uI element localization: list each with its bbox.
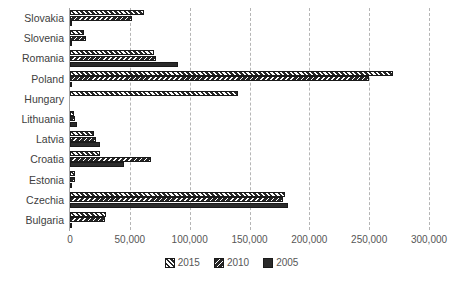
bar-poland-2005 (70, 82, 72, 87)
bar-lithuania-2005 (70, 122, 77, 127)
category-label-estonia: Estonia (29, 175, 64, 186)
legend-label-2015: 2015 (178, 258, 200, 268)
bar-group: Lithuania (70, 109, 429, 129)
bar-group: Hungary (70, 89, 429, 109)
bar-croatia-2010 (70, 157, 151, 162)
category-label-lithuania: Lithuania (21, 114, 64, 125)
bar-chart: SlovakiaSloveniaRomaniaPolandHungaryLith… (0, 0, 463, 283)
bar-latvia-2005 (70, 142, 100, 147)
bar-group: Romania (70, 48, 429, 68)
category-label-bulgaria: Bulgaria (25, 215, 64, 226)
bar-group: Poland (70, 69, 429, 89)
bar-croatia-2015 (70, 151, 100, 156)
legend-swatch-2010 (214, 258, 224, 268)
bar-poland-2015 (70, 71, 393, 76)
bar-czechia-2015 (70, 192, 285, 197)
bar-estonia-2015 (70, 171, 75, 176)
x-tick-label: 250,000 (351, 234, 387, 245)
x-tick-label: 0 (67, 234, 73, 245)
plot-area: SlovakiaSloveniaRomaniaPolandHungaryLith… (70, 8, 429, 230)
bar-latvia-2015 (70, 131, 94, 136)
bar-lithuania-2010 (70, 116, 75, 121)
legend-swatch-2015 (165, 258, 175, 268)
x-tick-label: 300,000 (411, 234, 447, 245)
bar-bulgaria-2005 (70, 223, 72, 228)
gridline (429, 8, 430, 230)
bar-bulgaria-2015 (70, 212, 106, 217)
bar-group: Latvia (70, 129, 429, 149)
bar-group: Croatia (70, 149, 429, 169)
x-tick-label: 100,000 (172, 234, 208, 245)
bar-slovenia-2015 (70, 30, 84, 35)
bar-group: Slovenia (70, 28, 429, 48)
bar-romania-2015 (70, 50, 154, 55)
category-label-poland: Poland (31, 74, 64, 85)
category-label-slovakia: Slovakia (24, 13, 64, 24)
bar-lithuania-2015 (70, 111, 74, 116)
bar-slovakia-2005 (70, 21, 72, 26)
bar-slovenia-2010 (70, 36, 86, 41)
bar-slovakia-2010 (70, 16, 132, 21)
x-tick-label: 150,000 (231, 234, 267, 245)
legend-label-2005: 2005 (276, 258, 298, 268)
bar-czechia-2005 (70, 203, 288, 208)
bar-group: Bulgaria (70, 210, 429, 230)
category-label-latvia: Latvia (36, 134, 64, 145)
bar-group: Slovakia (70, 8, 429, 28)
legend-item-2005[interactable]: 2005 (263, 258, 298, 268)
bar-estonia-2010 (70, 177, 75, 182)
legend: 201520102005 (0, 258, 463, 268)
bar-group: Czechia (70, 190, 429, 210)
bar-slovenia-2005 (70, 41, 72, 46)
category-label-slovenia: Slovenia (24, 33, 64, 44)
bar-hungary-2015 (70, 91, 238, 96)
bar-latvia-2010 (70, 137, 96, 142)
bar-slovakia-2015 (70, 10, 144, 15)
category-label-hungary: Hungary (24, 94, 64, 105)
bar-poland-2010 (70, 76, 369, 81)
bar-group: Estonia (70, 169, 429, 189)
category-label-croatia: Croatia (30, 154, 64, 165)
x-tick-label: 50,000 (115, 234, 146, 245)
category-label-czechia: Czechia (26, 195, 64, 206)
category-label-romania: Romania (22, 53, 64, 64)
bar-czechia-2010 (70, 197, 283, 202)
legend-label-2010: 2010 (227, 258, 249, 268)
legend-item-2010[interactable]: 2010 (214, 258, 249, 268)
legend-swatch-2005 (263, 258, 273, 268)
bar-romania-2010 (70, 56, 156, 61)
bar-croatia-2005 (70, 162, 124, 167)
legend-item-2015[interactable]: 2015 (165, 258, 200, 268)
bar-romania-2005 (70, 62, 178, 67)
bar-estonia-2005 (70, 183, 72, 188)
bar-bulgaria-2010 (70, 217, 105, 222)
x-tick-label: 200,000 (291, 234, 327, 245)
